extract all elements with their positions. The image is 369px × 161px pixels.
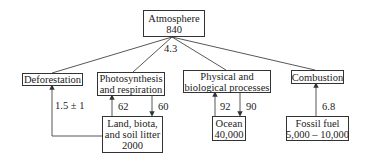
land-value: 2000 (122, 140, 143, 151)
land-label-1: Land, biota, (107, 118, 157, 129)
phys-to-ocean-label: 90 (246, 101, 257, 112)
photo-to-land-label: 60 (158, 101, 169, 112)
photosynthesis-label-1: Photosynthesis (99, 73, 162, 84)
physical-label-1: Physical and (200, 71, 253, 82)
atmosphere-net-label: 4.3 (164, 43, 177, 54)
deforestation-label: Deforestation (24, 74, 81, 85)
photosynthesis-node: Photosynthesis and respiration (97, 72, 165, 96)
atmosphere-node: Atmosphere 840 (143, 10, 205, 37)
land-node: Land, biota, and soil litter 2000 (102, 116, 163, 153)
combustion-node: Combustion (291, 70, 344, 84)
ocean-to-phys-label: 92 (220, 101, 231, 112)
atmosphere-value: 840 (166, 24, 182, 35)
deforestation-flow-label: 1.5 ± 1 (55, 100, 84, 111)
land-to-photo-label: 62 (118, 101, 129, 112)
ocean-node: Ocean 40,000 (212, 116, 246, 141)
combustion-label: Combustion (292, 72, 343, 83)
ocean-label: Ocean (216, 118, 243, 129)
physical-label-2: biological processes (185, 82, 270, 93)
land-label-2: and soil litter (105, 129, 160, 140)
photosynthesis-label-2: and respiration (100, 84, 163, 95)
atmosphere-label: Atmosphere (148, 13, 199, 24)
ocean-value: 40,000 (215, 129, 244, 140)
fossil-label: Fossil fuel (295, 118, 339, 129)
fossil-to-combustion-label: 6.8 (322, 101, 335, 112)
physical-processes-node: Physical and biological processes (183, 70, 271, 93)
fossil-value: 5,000 – 10,000 (286, 129, 349, 140)
deforestation-node: Deforestation (22, 73, 83, 86)
fossil-fuel-node: Fossil fuel 5,000 – 10,000 (286, 116, 349, 141)
